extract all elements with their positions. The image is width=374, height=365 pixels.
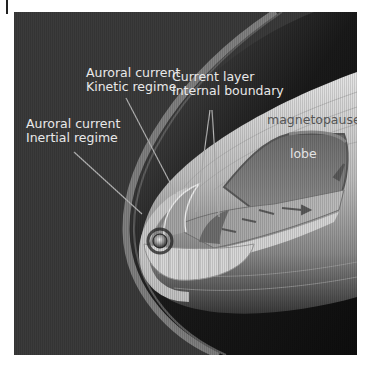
label-inertial-regime: Auroral current Inertial regime	[26, 117, 120, 145]
scanline-texture	[14, 12, 357, 355]
label-inertial-line1: Auroral current	[26, 117, 120, 131]
margin-tick-mark	[6, 0, 8, 14]
label-inertial-line2: Inertial regime	[26, 131, 120, 145]
label-current-layer-line1: Current layer	[172, 70, 284, 84]
label-magnetopause: magnetopause	[267, 113, 357, 127]
magnetosphere-svg	[14, 12, 357, 355]
magnetosphere-illustration: Auroral current Kinetic regime Current l…	[14, 12, 357, 355]
label-kinetic-regime: Auroral current Kinetic regime	[86, 66, 180, 94]
label-current-layer: Current layer Internal boundary	[172, 70, 284, 98]
label-lobe: lobe	[290, 147, 317, 161]
label-current-layer-line2: Internal boundary	[172, 84, 284, 98]
label-kinetic-line2: Kinetic regime	[86, 80, 180, 94]
label-kinetic-line1: Auroral current	[86, 66, 180, 80]
